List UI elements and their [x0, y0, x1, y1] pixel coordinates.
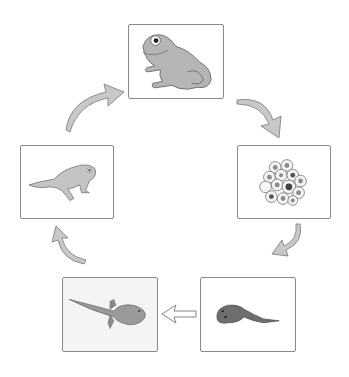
- adult-frog-icon: [129, 25, 223, 98]
- tadpole-with-legs-icon: [63, 278, 157, 351]
- frog-eggs-icon: [238, 146, 330, 218]
- stage-tadpole: Tadpole: [200, 277, 296, 352]
- arrow-froglet-to-adult: [60, 80, 130, 135]
- arrow-adult-to-eggs: [235, 92, 290, 142]
- tadpole-icon: [201, 278, 295, 351]
- diagram-title: Frog life cycle: [0, 0, 1, 1]
- froglet-icon: [21, 146, 113, 218]
- stage-adult-frog: Adult frog: [128, 24, 224, 99]
- arrow-eggs-to-tadpole: [270, 222, 310, 262]
- arrow-tadpole-to-tadpole-with-legs: [160, 303, 198, 325]
- stage-tadpole-with-legs: Tadpole with legs: [62, 277, 158, 352]
- stage-froglet: Froglet: [20, 145, 114, 219]
- stage-eggs: Frog spawn (eggs): [237, 145, 331, 219]
- arrow-tadpole-with-legs-to-froglet: [48, 226, 88, 266]
